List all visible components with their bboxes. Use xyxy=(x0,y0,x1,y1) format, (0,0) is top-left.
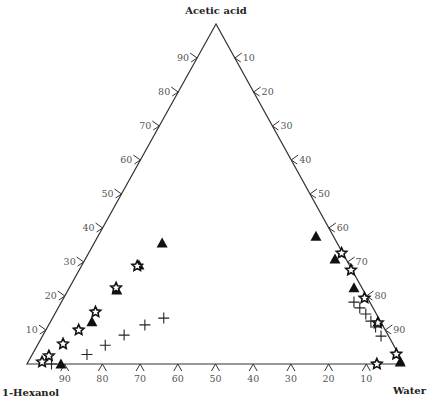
star-marker-2 xyxy=(90,306,100,316)
tick-label-left-80: 80 xyxy=(158,86,170,97)
star-marker-4 xyxy=(58,338,68,348)
star-marker-7 xyxy=(336,248,346,258)
star-marker-12 xyxy=(372,359,382,369)
cross-marker-0 xyxy=(158,313,169,324)
star-marker-3 xyxy=(73,325,83,335)
tick-label-right-30: 30 xyxy=(280,120,292,131)
tick-bottom-50 xyxy=(212,364,220,371)
vertex-label-water: Water xyxy=(392,385,427,396)
data-points xyxy=(37,231,406,370)
tick-label-left-60: 60 xyxy=(120,154,132,165)
tick-label-right-90: 90 xyxy=(393,324,405,335)
cross-marker-1 xyxy=(139,319,150,330)
tick-label-right-70: 70 xyxy=(356,256,368,267)
star-marker-11 xyxy=(391,349,401,359)
tick-label-bottom-90: 90 xyxy=(59,373,71,384)
star-marker-5 xyxy=(44,350,54,360)
tick-label-left-20: 20 xyxy=(45,290,57,301)
tick-label-left-30: 30 xyxy=(64,256,76,267)
triangle-marker-3 xyxy=(86,316,97,326)
tick-label-left-40: 40 xyxy=(83,222,95,233)
tick-label-bottom-70: 70 xyxy=(134,373,146,384)
tick-label-left-50: 50 xyxy=(101,188,113,199)
cross-marker-3 xyxy=(100,340,111,351)
tick-label-bottom-80: 80 xyxy=(96,373,108,384)
star-marker-9 xyxy=(359,293,369,303)
tick-label-left-90: 90 xyxy=(177,52,189,63)
tick-label-bottom-20: 20 xyxy=(323,373,335,384)
tick-label-bottom-60: 60 xyxy=(172,373,184,384)
tick-bottom-20 xyxy=(325,364,333,371)
tick-bottom-30 xyxy=(287,364,295,371)
tick-label-left-10: 10 xyxy=(26,324,38,335)
ternary-diagram: 1020304050607080901020304050607080909080… xyxy=(0,0,429,402)
cross-marker-11 xyxy=(376,331,387,342)
tick-labels: 1020304050607080901020304050607080909080… xyxy=(26,52,405,384)
tick-label-right-80: 80 xyxy=(374,290,386,301)
star-marker-0 xyxy=(111,282,121,292)
triangle-frame xyxy=(27,24,404,364)
triangle-marker-0 xyxy=(157,237,168,247)
triangle-marker-7 xyxy=(348,282,359,292)
tick-label-right-40: 40 xyxy=(299,154,311,165)
tick-bottom-10 xyxy=(362,364,370,371)
tick-label-left-70: 70 xyxy=(139,120,151,131)
star-marker-10 xyxy=(373,317,383,327)
tick-label-right-10: 10 xyxy=(243,52,255,63)
tick-bottom-60 xyxy=(174,364,182,371)
tick-label-right-60: 60 xyxy=(337,222,349,233)
cross-marker-6 xyxy=(348,297,359,308)
tick-label-bottom-50: 50 xyxy=(209,373,221,384)
cross-marker-4 xyxy=(81,349,92,360)
tick-bottom-80 xyxy=(98,364,106,371)
star-marker-1 xyxy=(132,261,142,271)
triangle-marker-9 xyxy=(395,356,406,366)
cross-marker-8 xyxy=(360,309,371,320)
tick-label-bottom-30: 30 xyxy=(285,373,297,384)
tick-label-bottom-40: 40 xyxy=(247,373,259,384)
vertex-label-acetic-acid: Acetic acid xyxy=(184,5,247,16)
tick-bottom-40 xyxy=(249,364,257,371)
cross-marker-2 xyxy=(119,330,130,341)
tick-label-right-20: 20 xyxy=(262,86,274,97)
tick-label-bottom-10: 10 xyxy=(360,373,372,384)
triangle-marker-5 xyxy=(310,231,321,241)
vertex-label-1-hexanol: 1-Hexanol xyxy=(2,387,59,398)
cross-marker-7 xyxy=(354,302,365,313)
tick-label-right-50: 50 xyxy=(318,188,330,199)
tick-bottom-70 xyxy=(136,364,144,371)
